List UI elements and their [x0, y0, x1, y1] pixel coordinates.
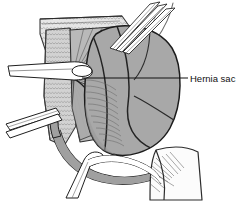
- illustration-figure: Hernia sac: [0, 0, 248, 202]
- hernia-sac-label: Hernia sac: [190, 73, 236, 84]
- surgical-illustration-canvas: Hernia sac: [0, 0, 248, 202]
